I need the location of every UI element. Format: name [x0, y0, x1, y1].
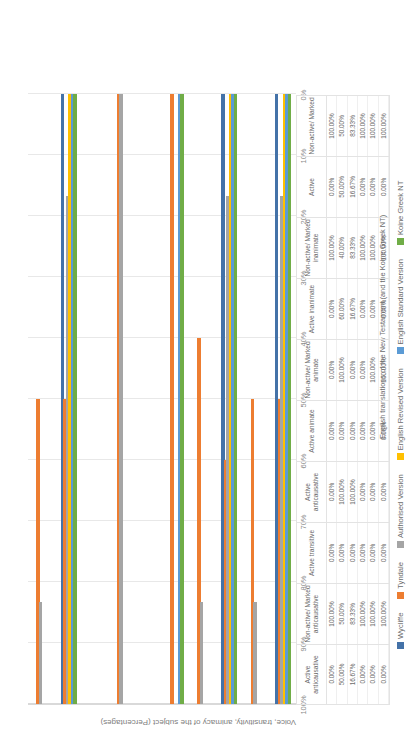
data-table-cell: 0.00% — [337, 523, 347, 583]
data-table-cell: 0.00% — [379, 462, 389, 522]
data-table-cell: 100.00% — [379, 584, 389, 644]
legend-item-label: English Revised Version — [396, 368, 405, 450]
legend-swatch-icon — [397, 453, 404, 460]
data-table-cell: 0.00% — [358, 645, 368, 704]
data-table-cell: 0.00% — [327, 401, 337, 461]
data-table-cell: 0.00% — [368, 157, 378, 217]
data-table-cell: 100.00% — [327, 584, 337, 644]
data-table-cell: 100.00% — [327, 218, 337, 278]
legend-item[interactable]: Authorised Version — [396, 474, 405, 548]
legend-swatch-icon — [397, 592, 404, 599]
data-table-cell: 0.00% — [379, 157, 389, 217]
data-table-column: Active animate0.00%0.00%0.00%0.00%0.00%0… — [297, 400, 389, 461]
data-table-cell: 83.33% — [348, 584, 358, 644]
category-band — [135, 94, 162, 704]
data-table-cell: 0.00% — [368, 645, 378, 704]
legend-item-label: English Standard Version — [396, 259, 405, 344]
data-table-column-header: Active transitive — [297, 523, 327, 583]
chart-legend: WycliffeTyndaleAuthorised VersionEnglish… — [392, 95, 408, 705]
data-table-cell: 0.00% — [368, 401, 378, 461]
data-table-cell: 0.00% — [358, 279, 368, 339]
category-band — [269, 94, 296, 704]
bar — [253, 602, 256, 704]
data-table-column: Active anticausative0.00%50.00%16.67%0.0… — [297, 644, 389, 705]
category-band — [242, 94, 269, 704]
data-table-column-header: Active animate — [297, 401, 327, 461]
data-table-cell: 16.67% — [348, 645, 358, 704]
data-table-cell: 0.00% — [348, 523, 358, 583]
data-table-cell: 50.00% — [337, 157, 347, 217]
legend-item[interactable]: English Standard Version — [396, 259, 405, 354]
legend-item[interactable]: English Revised Version — [396, 368, 405, 460]
data-table-cell: 100.00% — [358, 218, 368, 278]
data-table: Active anticausative0.00%50.00%16.67%0.0… — [296, 95, 390, 705]
plot-area — [28, 94, 296, 705]
data-table-column-header: Active anticausative — [297, 462, 327, 522]
legend-swatch-icon — [397, 642, 404, 649]
data-table-cell: 0.00% — [358, 523, 368, 583]
legend-item-label: Authorised Version — [396, 474, 405, 538]
data-table-cell: 100.00% — [368, 340, 378, 400]
data-table-column: Non-active/ Marked100.00%50.00%83.33%100… — [297, 95, 389, 156]
data-table-cell: 0.00% — [368, 279, 378, 339]
data-table-cell: 100.00% — [368, 218, 378, 278]
chart-canvas: 100%90%80%70%60%50%40%30%20%10%0% Voice,… — [0, 0, 410, 739]
data-table-cell: 50.00% — [337, 96, 347, 156]
data-table-cell: 50.00% — [337, 584, 347, 644]
bar — [180, 94, 183, 704]
data-table-cell: 0.00% — [379, 523, 389, 583]
data-table-cell: 0.00% — [368, 462, 378, 522]
data-table-cell: 0.00% — [358, 401, 368, 461]
data-table-column: Non-active/ Marked animate0.00%100.00%0.… — [297, 339, 389, 400]
data-table-column-header: Active anticausative — [297, 645, 327, 704]
data-table-column: Active transitive0.00%0.00%0.00%0.00%0.0… — [297, 522, 389, 583]
data-table-column-header: Non-active/ Marked — [297, 96, 327, 156]
data-table-cell: 100.00% — [379, 96, 389, 156]
data-table-cell: 100.00% — [327, 96, 337, 156]
data-table-cell: 0.00% — [379, 401, 389, 461]
data-table-cell: 0.00% — [379, 279, 389, 339]
data-table-cell: 16.67% — [348, 279, 358, 339]
legend-swatch-icon — [397, 347, 404, 354]
data-table-cell: 100.00% — [358, 96, 368, 156]
data-table-cell: 40.00% — [337, 218, 347, 278]
data-table-cell: 0.00% — [327, 645, 337, 704]
data-table-cell: 100.00% — [379, 218, 389, 278]
data-table-column-header: Non-active/ Marked anticausative — [297, 584, 327, 644]
data-table-cell: 100.00% — [337, 462, 347, 522]
data-table-column: Non-active/ Marked anticausative100.00%5… — [297, 583, 389, 644]
bar — [200, 602, 203, 704]
data-table-column: Active inanimate0.00%60.00%16.67%0.00%0.… — [297, 278, 389, 339]
data-table-cell: 100.00% — [379, 340, 389, 400]
data-table-cell: 0.00% — [327, 462, 337, 522]
data-table-cell: 0.00% — [327, 157, 337, 217]
data-table-cell: 0.00% — [379, 645, 389, 704]
data-table-cell: 0.00% — [358, 340, 368, 400]
category-band — [82, 94, 109, 704]
data-table-cell: 0.00% — [358, 462, 368, 522]
data-table-cell: 83.33% — [348, 96, 358, 156]
bar — [119, 94, 122, 704]
data-table-cell: 83.33% — [348, 218, 358, 278]
legend-item[interactable]: Tyndale — [396, 562, 405, 599]
legend-item-label: Koine Greek NT — [396, 181, 405, 235]
data-table-column-header: Active inanimate — [297, 279, 327, 339]
data-table-cell: 0.00% — [327, 340, 337, 400]
data-table-cell: 16.67% — [348, 157, 358, 217]
legend-swatch-icon — [397, 238, 404, 245]
legend-item-label: Tyndale — [396, 562, 405, 589]
legend-item[interactable]: Koine Greek NT — [396, 181, 405, 245]
legend-item[interactable]: Wycliffe — [396, 613, 405, 649]
data-table-cell: 100.00% — [368, 584, 378, 644]
bar — [234, 94, 237, 704]
data-table-cell: 0.00% — [348, 401, 358, 461]
data-table-cell: 0.00% — [337, 401, 347, 461]
category-band — [55, 94, 82, 704]
data-table-cell: 60.00% — [337, 279, 347, 339]
chart-stage: 100%90%80%70%60%50%40%30%20%10%0% Voice,… — [0, 0, 410, 739]
value-axis-title: Voice, transitivity, animacy of the subj… — [101, 718, 297, 727]
data-table-cell: 0.00% — [327, 523, 337, 583]
data-table-column: Non-active/ Marked inanimate100.00%40.00… — [297, 217, 389, 278]
data-table-column-header: Active — [297, 157, 327, 217]
data-table-cell: 0.00% — [368, 523, 378, 583]
